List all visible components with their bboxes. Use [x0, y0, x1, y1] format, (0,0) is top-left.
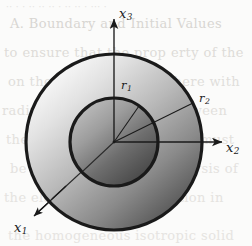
figure-container: ·· · · ·· ·· ·· · ·· ·· · ··· · A. Bound… — [0, 0, 252, 246]
axis-label-x2-subscript: 2 — [234, 146, 240, 156]
radius-label-r1: r1 — [121, 80, 132, 93]
diagram-svg — [0, 0, 252, 246]
axis-label-x3-text: x — [119, 6, 126, 21]
axis-label-x2-text: x — [226, 140, 233, 155]
radius-label-r2: r2 — [199, 93, 210, 106]
axis-label-x1-subscript: 1 — [22, 226, 28, 236]
radius-label-r1-text: r — [121, 78, 127, 92]
radius-label-r2-text: r — [199, 91, 205, 105]
radius-label-r2-subscript: 2 — [205, 97, 210, 106]
radius-label-r1-subscript: 1 — [127, 84, 132, 93]
axis-label-x1: x1 — [14, 221, 27, 236]
axis-label-x2: x2 — [226, 141, 239, 156]
origin-point — [113, 141, 116, 144]
axis-label-x3: x3 — [119, 7, 132, 22]
axis-label-x1-text: x — [14, 220, 21, 235]
axis-label-x3-subscript: 3 — [127, 12, 133, 22]
